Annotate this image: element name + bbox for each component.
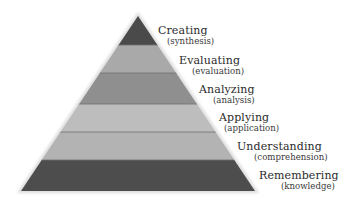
pyramid-band-applying	[0, 104, 345, 133]
level-subtitle: (knowledge)	[281, 182, 339, 191]
level-subtitle: (synthesis)	[167, 37, 214, 46]
level-label-applying: Applying (application)	[219, 112, 279, 133]
level-label-creating: Creating (synthesis)	[158, 25, 214, 46]
level-name: Creating	[158, 25, 214, 36]
level-name: Remembering	[259, 170, 339, 181]
level-subtitle: (evaluation)	[192, 67, 244, 76]
level-name: Evaluating	[179, 55, 244, 66]
level-name: Applying	[219, 112, 279, 123]
level-label-remembering: Remembering (knowledge)	[259, 170, 339, 191]
level-label-evaluating: Evaluating (evaluation)	[179, 55, 244, 76]
pyramid-band-analyzing	[0, 73, 345, 105]
level-label-analyzing: Analyzing (analysis)	[199, 84, 255, 105]
level-label-understanding: Understanding (comprehension)	[237, 141, 328, 162]
pyramid-band-evaluating	[0, 45, 345, 74]
level-name: Analyzing	[199, 84, 255, 95]
level-subtitle: (application)	[224, 124, 279, 133]
level-subtitle: (comprehension)	[254, 153, 328, 162]
level-name: Understanding	[237, 141, 328, 152]
level-subtitle: (analysis)	[213, 96, 255, 105]
